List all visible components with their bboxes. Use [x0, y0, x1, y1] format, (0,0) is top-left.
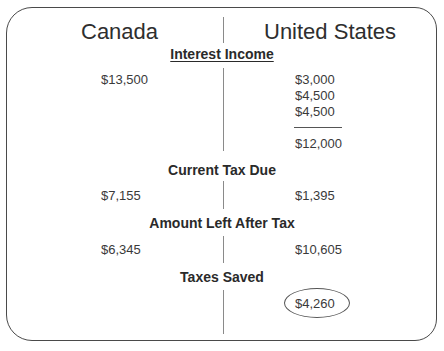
- section-title-amount-left-after-tax: Amount Left After Tax: [0, 216, 444, 230]
- section-title-taxes-saved: Taxes Saved: [0, 270, 444, 284]
- column-header-united-states: United States: [264, 21, 396, 43]
- us-taxes-saved: $4,260: [295, 297, 335, 310]
- column-divider: [223, 68, 224, 151]
- us-interest-income-1: $3,000: [295, 73, 335, 86]
- canada-current-tax-due: $7,155: [101, 189, 141, 202]
- column-divider: [223, 236, 224, 263]
- us-interest-income-total: $12,000: [295, 137, 342, 150]
- column-divider: [223, 17, 224, 43]
- us-amount-left: $10,605: [295, 243, 342, 256]
- section-title-interest-income: Interest Income: [0, 47, 444, 61]
- us-current-tax-due: $1,395: [295, 189, 335, 202]
- column-divider: [223, 181, 224, 209]
- sum-rule: [294, 127, 342, 128]
- us-interest-income-2: $4,500: [295, 89, 335, 102]
- column-header-canada: Canada: [81, 21, 158, 43]
- section-title-text: Interest Income: [170, 46, 273, 62]
- canada-interest-income: $13,500: [101, 73, 148, 86]
- canada-amount-left: $6,345: [101, 243, 141, 256]
- us-interest-income-3: $4,500: [295, 105, 335, 118]
- section-title-current-tax-due: Current Tax Due: [0, 163, 444, 177]
- column-divider: [223, 290, 224, 334]
